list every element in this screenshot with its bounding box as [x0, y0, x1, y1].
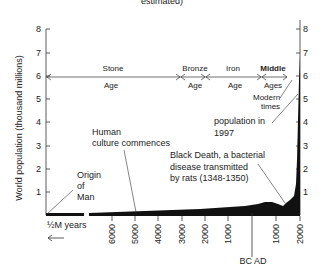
svg-text:Man: Man	[77, 192, 95, 202]
chart-title: estimated)	[141, 0, 183, 6]
svg-text:8: 8	[303, 24, 308, 34]
x-start-label: ½M years	[47, 220, 87, 230]
svg-text:3: 3	[36, 141, 41, 151]
svg-text:times: times	[261, 102, 280, 111]
svg-text:culture commences: culture commences	[92, 138, 171, 148]
svg-text:1000: 1000	[271, 224, 281, 244]
svg-text:Ages: Ages	[264, 81, 282, 90]
svg-text:Black Death, a bacterial: Black Death, a bacterial	[170, 150, 265, 160]
svg-text:2000: 2000	[295, 224, 305, 244]
annotation-origin-of-man: Origin of Man	[47, 170, 101, 214]
svg-text:Middle: Middle	[260, 64, 286, 73]
svg-text:Stone: Stone	[103, 64, 124, 73]
svg-text:8: 8	[36, 24, 41, 34]
svg-text:7: 7	[303, 48, 308, 58]
x-tick-labels: 6000 5000 4000 3000 2000 1000 1000 2000	[107, 224, 305, 244]
svg-text:population in: population in	[214, 116, 265, 126]
svg-text:Age: Age	[228, 81, 243, 90]
svg-text:disease transmitted: disease transmitted	[170, 162, 248, 172]
svg-text:2: 2	[303, 164, 308, 174]
svg-text:1000: 1000	[223, 224, 233, 244]
svg-text:2000: 2000	[200, 224, 210, 244]
left-y-tick-labels: 1 2 3 4 5 6 7 8	[36, 24, 41, 197]
svg-text:4: 4	[303, 117, 308, 127]
svg-text:Origin: Origin	[77, 170, 101, 180]
population-chart: estimated) World population (thousand mi…	[0, 0, 325, 275]
svg-text:5000: 5000	[130, 224, 140, 244]
svg-text:Modern: Modern	[253, 93, 280, 102]
svg-text:5: 5	[303, 94, 308, 104]
svg-text:by rats (1348-1350): by rats (1348-1350)	[170, 173, 249, 183]
era-timeline	[46, 74, 287, 80]
svg-text:4000: 4000	[153, 224, 163, 244]
svg-text:4: 4	[36, 117, 41, 127]
svg-text:3000: 3000	[177, 224, 187, 244]
svg-text:6: 6	[36, 71, 41, 81]
svg-text:6: 6	[303, 71, 308, 81]
svg-text:1: 1	[303, 187, 308, 197]
annotation-human-culture: Human culture commences	[92, 127, 171, 212]
svg-text:5: 5	[36, 94, 41, 104]
svg-text:2: 2	[36, 164, 41, 174]
svg-text:Human: Human	[92, 127, 121, 137]
svg-text:6000: 6000	[107, 224, 117, 244]
svg-text:7: 7	[36, 48, 41, 58]
svg-text:Age: Age	[104, 81, 119, 90]
left-y-axis	[46, 29, 50, 215]
svg-text:1997: 1997	[214, 128, 234, 138]
annotation-black-death: Black Death, a bacterial disease transmi…	[170, 150, 285, 203]
left-arrow-icon	[48, 235, 64, 241]
bc-ad-label: BC AD	[239, 256, 267, 266]
right-y-tick-labels: 1 2 3 4 5 6 7 8	[303, 24, 308, 197]
svg-text:Age: Age	[188, 81, 203, 90]
svg-text:3: 3	[303, 141, 308, 151]
y-axis-title: World population (thousand millions)	[14, 55, 24, 200]
svg-text:1: 1	[36, 187, 41, 197]
svg-text:Iron: Iron	[226, 64, 240, 73]
svg-text:of: of	[77, 181, 85, 191]
svg-text:Bronze: Bronze	[182, 64, 208, 73]
